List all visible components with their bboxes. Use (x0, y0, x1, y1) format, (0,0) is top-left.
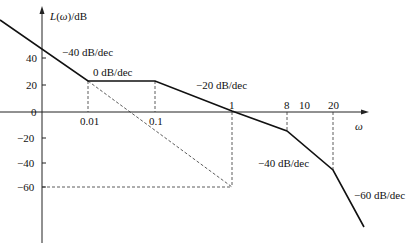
y-tick-40: 40 (26, 53, 37, 64)
x-tick-10: 10 (299, 100, 310, 111)
slope-label-minus20: −20 dB/dec (196, 80, 247, 91)
bode-magnitude-chart: L(ω)/dB ω 40 20 0 −20 −40 −60 0.01 0.1 1… (0, 0, 420, 248)
y-tick-20: 20 (26, 80, 37, 91)
x-tick-20: 20 (328, 100, 339, 111)
x-tick-1: 1 (229, 100, 235, 111)
x-axis-arrow-icon (361, 110, 369, 115)
x-tick-0.1: 0.1 (149, 116, 163, 127)
x-tick-8: 8 (284, 100, 290, 111)
y-tick-minus20: −20 (17, 133, 34, 144)
y-tick-minus40: −40 (17, 158, 34, 169)
y-ticks (42, 58, 46, 187)
y-tick-0: 0 (31, 107, 37, 118)
y-axis-label: L(ω)/dB (50, 11, 87, 22)
x-tick-0.01: 0.01 (80, 116, 99, 127)
slope-label-minus40-high: −40 dB/dec (258, 158, 309, 169)
y-axis-arrow-icon (40, 6, 45, 14)
slope-label-minus60: −60 dB/dec (354, 190, 405, 201)
magnitude-curve (0, 20, 364, 227)
x-axis-label: ω (355, 121, 363, 132)
slope-label-0: 0 dB/dec (93, 67, 132, 78)
y-tick-minus60: −60 (17, 182, 34, 193)
slope-label-minus40-low: −40 dB/dec (62, 47, 113, 58)
